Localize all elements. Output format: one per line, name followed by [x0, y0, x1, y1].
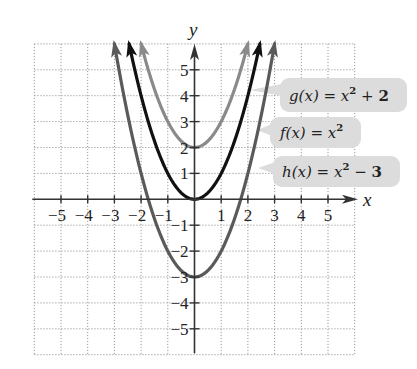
function-labels: g(x) = x2 + 2f(x) = x2h(x) = x2 − 3	[279, 85, 389, 181]
x-tick-label: 2	[244, 206, 253, 225]
function-label-f: f(x) = x2	[279, 122, 343, 142]
x-tick-label: 5	[324, 206, 333, 225]
parabola-graph: xy −5−4−3−2−11234554321−1−2−3−4−5 g(x) =…	[0, 0, 417, 369]
function-label-g: g(x) = x2 + 2	[289, 85, 389, 105]
x-tick-label: −5	[48, 206, 66, 225]
y-tick-label: 2	[180, 139, 189, 158]
y-tick-label: −4	[170, 294, 189, 313]
y-tick-label: 5	[180, 61, 189, 80]
y-tick-label: −3	[170, 268, 188, 287]
x-tick-label: 3	[270, 206, 279, 225]
x-tick-label: −3	[101, 206, 119, 225]
coordinate-plane: xy −5−4−3−2−11234554321−1−2−3−4−5 g(x) =…	[0, 0, 417, 369]
callout-pointer	[258, 162, 275, 174]
x-tick-label: 4	[297, 206, 306, 225]
y-tick-label: 1	[180, 164, 189, 183]
y-axis-label: y	[187, 19, 198, 40]
x-tick-label: 1	[217, 206, 226, 225]
x-tick-label: −4	[75, 206, 94, 225]
y-tick-label: 3	[180, 113, 189, 132]
y-tick-label: −2	[170, 242, 188, 261]
x-tick-label: −2	[128, 206, 146, 225]
y-tick-label: 4	[180, 87, 189, 106]
x-axis-label: x	[362, 189, 372, 210]
y-tick-label: −5	[170, 320, 188, 339]
function-label-h: h(x) = x2 − 3	[282, 161, 382, 181]
y-tick-label: −1	[170, 216, 188, 235]
